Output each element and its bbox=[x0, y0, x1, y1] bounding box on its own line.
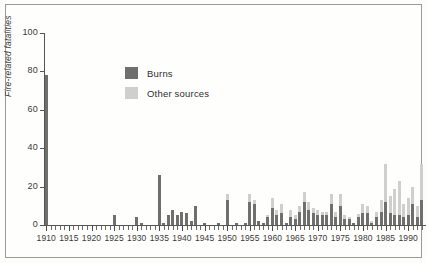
bar-stack bbox=[262, 223, 265, 225]
x-tick-mark bbox=[200, 226, 201, 230]
bar-segment-burns bbox=[185, 213, 188, 225]
bar-stack bbox=[352, 223, 355, 225]
bar-stack bbox=[113, 215, 116, 225]
bar-segment-burns bbox=[294, 219, 297, 225]
bar-stack bbox=[271, 198, 274, 225]
bar-segment-burns bbox=[235, 223, 238, 225]
x-tick-mark bbox=[105, 226, 106, 230]
x-tick-mark bbox=[51, 226, 52, 230]
bar-stack bbox=[321, 212, 324, 225]
bar-stack bbox=[185, 213, 188, 225]
x-tick-mark bbox=[173, 226, 174, 230]
x-tick-mark bbox=[245, 226, 246, 230]
bar-stack bbox=[280, 204, 283, 225]
bar-segment-other-sources bbox=[402, 204, 405, 217]
x-tick-label: 1940 bbox=[172, 233, 191, 243]
x-tick-mark bbox=[87, 226, 88, 230]
bar-segment-other-sources bbox=[248, 194, 251, 202]
bar-segment-burns bbox=[420, 200, 423, 225]
x-tick-mark bbox=[64, 226, 65, 230]
bar-segment-burns bbox=[203, 223, 206, 225]
chart-legend: BurnsOther sources bbox=[125, 63, 255, 103]
x-tick-mark bbox=[159, 226, 160, 231]
bar-segment-other-sources bbox=[411, 187, 414, 204]
x-tick-mark bbox=[60, 226, 61, 230]
x-tick-label: 1985 bbox=[376, 233, 395, 243]
bar-segment-burns bbox=[407, 215, 410, 225]
bar-segment-burns bbox=[217, 223, 220, 225]
bar-segment-other-sources bbox=[380, 200, 383, 212]
bar-stack bbox=[176, 215, 179, 225]
bar-segment-burns bbox=[298, 212, 301, 225]
bar-segment-burns bbox=[135, 217, 138, 225]
bar-segment-burns bbox=[158, 175, 161, 225]
x-tick-mark bbox=[209, 226, 210, 230]
bar-stack bbox=[420, 164, 423, 225]
x-tick-mark bbox=[223, 226, 224, 230]
bar-stack bbox=[289, 210, 292, 225]
bar-segment-burns bbox=[280, 213, 283, 225]
bar-segment-burns bbox=[194, 206, 197, 225]
bar-stack bbox=[171, 210, 174, 225]
chart-frame: Fire-related fatalities 020406080100 191… bbox=[5, 4, 422, 258]
x-tick-mark bbox=[404, 226, 405, 230]
x-tick-mark bbox=[340, 226, 341, 231]
y-tick-label: 0 bbox=[6, 219, 38, 229]
x-tick-mark bbox=[177, 226, 178, 230]
bar-segment-burns bbox=[330, 204, 333, 225]
bar-segment-burns bbox=[140, 223, 143, 225]
bar-segment-burns bbox=[321, 215, 324, 225]
x-tick-mark bbox=[286, 226, 287, 230]
x-tick-mark bbox=[69, 226, 70, 231]
x-tick-mark bbox=[96, 226, 97, 230]
x-tick-mark bbox=[214, 226, 215, 230]
bar-segment-other-sources bbox=[407, 198, 410, 215]
x-tick-mark bbox=[309, 226, 310, 230]
bar-stack bbox=[162, 223, 165, 225]
bar-stack bbox=[393, 189, 396, 225]
bar-segment-other-sources bbox=[307, 202, 310, 210]
x-tick-mark bbox=[92, 226, 93, 231]
x-tick-label: 1955 bbox=[240, 233, 259, 243]
chart-figure: Fire-related fatalities 020406080100 191… bbox=[0, 0, 427, 263]
bar-segment-other-sources bbox=[339, 194, 342, 206]
bar-stack bbox=[416, 206, 419, 225]
bar-stack bbox=[366, 206, 369, 225]
bar-stack bbox=[375, 212, 378, 225]
y-tick-label: 100 bbox=[6, 27, 38, 37]
bar-stack bbox=[248, 194, 251, 225]
x-tick-mark bbox=[141, 226, 142, 230]
bar-stack bbox=[158, 175, 161, 225]
bar-stack bbox=[402, 204, 405, 225]
bar-segment-burns bbox=[402, 217, 405, 225]
bar-stack bbox=[45, 75, 48, 225]
bar-stack bbox=[226, 194, 229, 225]
bar-segment-burns bbox=[307, 210, 310, 225]
bar-stack bbox=[294, 215, 297, 225]
x-tick-label: 1960 bbox=[263, 233, 282, 243]
bar-stack bbox=[298, 206, 301, 225]
x-tick-mark bbox=[250, 226, 251, 231]
bar-stack bbox=[275, 210, 278, 225]
bar-stack bbox=[285, 223, 288, 225]
x-tick-mark bbox=[417, 226, 418, 230]
x-tick-mark bbox=[408, 226, 409, 231]
legend-label: Other sources bbox=[147, 88, 209, 99]
x-tick-mark bbox=[128, 226, 129, 230]
bar-stack bbox=[194, 206, 197, 225]
x-tick-mark bbox=[46, 226, 47, 231]
bar-segment-burns bbox=[167, 215, 170, 225]
bar-segment-burns bbox=[325, 215, 328, 225]
bar-segment-burns bbox=[370, 223, 373, 225]
bar-segment-burns bbox=[271, 208, 274, 225]
x-tick-label: 1915 bbox=[59, 233, 78, 243]
x-tick-label: 1965 bbox=[285, 233, 304, 243]
legend-swatch-other-sources bbox=[125, 87, 138, 99]
bar-segment-burns bbox=[171, 210, 174, 225]
bar-stack bbox=[330, 194, 333, 225]
bar-stack bbox=[266, 215, 269, 225]
x-tick-label: 1980 bbox=[353, 233, 372, 243]
x-tick-mark bbox=[137, 226, 138, 231]
bar-segment-other-sources bbox=[384, 164, 387, 202]
bar-stack bbox=[361, 204, 364, 225]
